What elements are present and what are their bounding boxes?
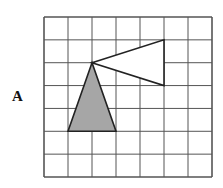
white-triangle: [92, 40, 164, 86]
grid-diagram: [0, 0, 223, 188]
gray-triangle: [68, 63, 116, 132]
grid-lines: [44, 17, 212, 177]
